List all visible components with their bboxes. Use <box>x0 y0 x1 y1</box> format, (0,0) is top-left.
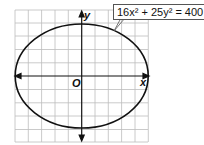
axes <box>15 11 149 141</box>
origin-label: O <box>72 77 81 89</box>
graph: y x O <box>0 0 204 145</box>
x-axis-label: x <box>139 76 147 88</box>
equation-label: 16x² + 25y² = 400 <box>113 4 204 20</box>
y-axis-down-arrow-icon <box>79 135 84 141</box>
y-axis-label: y <box>83 9 91 21</box>
